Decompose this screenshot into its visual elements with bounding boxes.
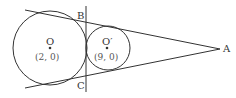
label-o: O (46, 36, 54, 47)
coord-o: (2, 0) (35, 52, 59, 62)
label-o-prime: O′ (102, 36, 113, 47)
geometry-diagram: B C A O (2, 0) O′ (9, 0) (0, 0, 236, 98)
center-dot-o-prime (106, 47, 109, 50)
line-upper-tangent (25, 10, 220, 49)
label-c: C (77, 80, 85, 91)
coord-o-prime: (9, 0) (94, 52, 118, 62)
center-dot-o (49, 47, 52, 50)
label-a: A (222, 43, 231, 54)
label-b: B (77, 10, 84, 21)
